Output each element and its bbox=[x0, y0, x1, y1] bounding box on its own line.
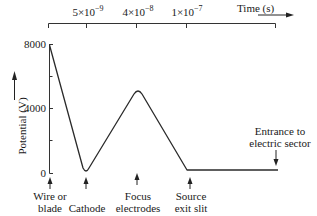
time-tick-label-3: 1×10−7 bbox=[167, 6, 207, 20]
position-label-exit-slit: Sourceexit slit bbox=[166, 190, 216, 214]
potential-curve bbox=[50, 45, 279, 171]
potential-axis-label: Potential (V) bbox=[16, 86, 28, 166]
potential-axis bbox=[50, 44, 54, 174]
y-tick-8000: 8000 bbox=[6, 38, 46, 50]
arrow-up-icon-focus bbox=[135, 173, 140, 185]
time-axis-label: Time (s) bbox=[237, 2, 274, 14]
arrow-up-icon-wire bbox=[48, 177, 53, 189]
time-axis bbox=[49, 24, 276, 29]
arrow-down-icon-entrance bbox=[274, 150, 279, 166]
arrow-up-icon-exit-slit bbox=[188, 177, 193, 189]
time-tick-label-1: 5×10−9 bbox=[68, 6, 108, 20]
diagram-canvas bbox=[0, 0, 317, 216]
position-label-focus: Focuselectrodes bbox=[110, 190, 166, 214]
y-tick-0: 0 bbox=[6, 167, 46, 179]
arrow-up-icon-cathode bbox=[84, 177, 89, 189]
position-label-cathode: Cathode bbox=[63, 202, 111, 214]
time-tick-label-2: 4×10−8 bbox=[118, 6, 158, 20]
position-label-entrance: Entrance toelectric sector bbox=[243, 125, 317, 149]
